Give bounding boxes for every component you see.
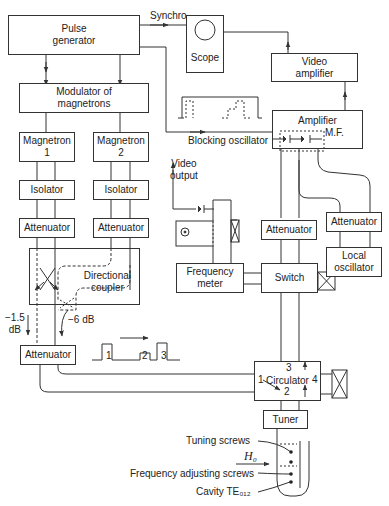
amplifier-mf-label: M.F.: [325, 127, 344, 139]
frequency-adjusting-screws-label: Frequency adjusting screws: [130, 468, 254, 480]
attenuator-switch-block: Attenuator: [261, 220, 317, 240]
local-oscillator-block: Local oscillator: [326, 247, 382, 277]
directional-coupler-label: Directional coupler: [84, 270, 131, 294]
synchro-label: Synchro: [150, 10, 187, 22]
magnetron-1-label: Magnetron 1: [23, 135, 71, 159]
pulse-generator-block: Pulse generator: [8, 15, 140, 55]
tuner-block: Tuner: [263, 410, 308, 429]
loss-2-label: −6 dB: [68, 314, 94, 326]
magnetron-2-block: Magnetron 2: [93, 132, 149, 162]
amplifier-block: Amplifier: [272, 110, 363, 149]
circulator-port-3: 3: [286, 362, 292, 374]
attenuator-combined-block: Attenuator: [20, 345, 76, 365]
local-oscillator-label: Local oscillator: [334, 250, 373, 274]
attenuator-switch-label: Attenuator: [266, 224, 312, 236]
video-amplifier-label: Video amplifier: [296, 56, 334, 80]
directional-coupler-block: Directional coupler: [29, 248, 140, 305]
isolator-2-label: Isolator: [105, 184, 138, 196]
scope-block: Scope: [186, 15, 224, 73]
attenuator-2-block: Attenuator: [93, 218, 149, 238]
frequency-meter-label: Frequency meter: [186, 266, 233, 290]
circulator-port-2: 2: [284, 386, 290, 398]
attenuator-lo-label: Attenuator: [331, 216, 377, 228]
attenuator-2-label: Attenuator: [98, 222, 144, 234]
pulse-1-label: 1: [106, 350, 112, 362]
blocking-oscillator-label: Blocking oscillator: [188, 135, 268, 147]
video-output-label: Video output: [170, 158, 198, 182]
diagram-canvas: Pulse generator Modulator of magnetrons …: [0, 0, 389, 506]
switch-block: Switch: [261, 263, 318, 293]
circulator-port-4: 4: [312, 374, 318, 386]
pulse-3-label: 3: [161, 350, 167, 362]
circulator-port-1: 1: [258, 374, 264, 386]
switch-label: Switch: [275, 272, 304, 284]
modulator-block: Modulator of magnetrons: [19, 83, 149, 113]
isolator-2-block: Isolator: [93, 180, 149, 200]
scope-label: Scope: [191, 52, 219, 64]
magnetron-1-block: Magnetron 1: [19, 132, 75, 162]
isolator-1-block: Isolator: [19, 180, 75, 200]
tuner-label: Tuner: [273, 414, 299, 426]
video-amplifier-block: Video amplifier: [271, 53, 358, 82]
tuning-screws-label: Tuning screws: [186, 435, 250, 447]
frequency-meter-block: Frequency meter: [176, 263, 244, 293]
loss-1-label: −1.5 dB: [5, 312, 25, 336]
amplifier-label: Amplifier: [298, 115, 337, 127]
h0-field-label: H₀: [244, 450, 257, 462]
attenuator-1-block: Attenuator: [19, 218, 75, 238]
attenuator-lo-block: Attenuator: [326, 212, 382, 232]
attenuator-combined-label: Attenuator: [25, 349, 71, 361]
pulse-generator-label: Pulse generator: [53, 23, 96, 47]
isolator-1-label: Isolator: [31, 184, 64, 196]
magnetron-2-label: Magnetron 2: [97, 135, 145, 159]
modulator-label: Modulator of magnetrons: [56, 86, 112, 110]
cavity-label: Cavity TE₀₁₂: [196, 486, 251, 498]
pulse-2-label: 2: [142, 350, 148, 362]
attenuator-1-label: Attenuator: [24, 222, 70, 234]
